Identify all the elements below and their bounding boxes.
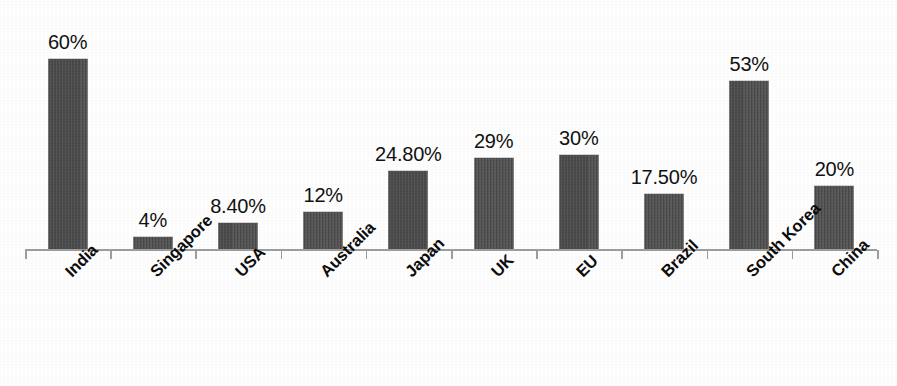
- axis-tick: [195, 250, 197, 259]
- x-axis-label-group: India: [25, 262, 110, 382]
- bar-group: 24.80%: [366, 18, 451, 250]
- axis-tick: [366, 250, 368, 259]
- axis-tick: [621, 250, 623, 259]
- bar: [389, 171, 428, 250]
- bar: [474, 158, 513, 250]
- x-axis-label: UK: [488, 251, 516, 279]
- bar-group: 8.40%: [195, 18, 280, 250]
- axis-tick: [25, 250, 27, 259]
- bar-group: 29%: [451, 18, 536, 250]
- bar-value-label: 60%: [48, 32, 87, 52]
- bar: [815, 186, 854, 250]
- axis-tick: [281, 250, 283, 259]
- bar-value-label: 8.40%: [210, 196, 266, 216]
- bar-group: 17.50%: [621, 18, 706, 250]
- bar-value-label: 24.80%: [375, 144, 442, 164]
- bar-value-label: 53%: [729, 54, 768, 74]
- bar: [304, 212, 343, 250]
- x-axis-label-group: Australia: [281, 262, 366, 382]
- bar-group: 4%: [110, 18, 195, 250]
- bar: [730, 81, 769, 250]
- bar: [559, 155, 598, 251]
- x-axis-label-group: USA: [195, 262, 280, 382]
- axis-tick: [792, 250, 794, 259]
- bar: [48, 59, 87, 250]
- bar: [644, 194, 683, 250]
- bar-value-label: 17.50%: [631, 167, 698, 187]
- x-axis-label-group: EU: [536, 262, 621, 382]
- x-axis-label-group: Brazil: [621, 262, 706, 382]
- axis-tick: [877, 250, 879, 259]
- bar-group: 60%: [25, 18, 110, 250]
- x-axis-label-group: China: [792, 262, 877, 382]
- axis-tick: [451, 250, 453, 259]
- bar-value-label: 30%: [559, 128, 598, 148]
- x-axis-label-group: Singapore: [110, 262, 195, 382]
- x-axis-label: EU: [573, 252, 601, 280]
- x-axis-label-group: UK: [451, 262, 536, 382]
- plot-area: 60%4%8.40%12%24.80%29%30%17.50%53%20%: [25, 18, 877, 250]
- bar-group: 30%: [536, 18, 621, 250]
- x-axis-label-group: Japan: [366, 262, 451, 382]
- bar-chart: 60%4%8.40%12%24.80%29%30%17.50%53%20% In…: [0, 0, 897, 386]
- bar-value-label: 20%: [815, 159, 854, 179]
- bar-group: 53%: [707, 18, 792, 250]
- bar-group: 12%: [281, 18, 366, 250]
- bar-value-label: 29%: [474, 131, 513, 151]
- x-axis-label-group: South Korea: [707, 262, 792, 382]
- axis-tick: [110, 250, 112, 259]
- axis-tick: [707, 250, 709, 259]
- x-axis-category-labels: IndiaSingaporeUSAAustraliaJapanUKEUBrazi…: [25, 262, 877, 382]
- bar-value-label: 12%: [303, 185, 342, 205]
- axis-tick: [536, 250, 538, 259]
- bar-value-label: 4%: [139, 210, 168, 230]
